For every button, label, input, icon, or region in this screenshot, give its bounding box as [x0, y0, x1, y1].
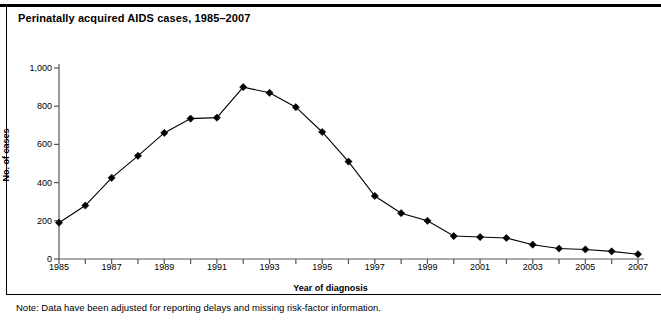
data-point-marker	[424, 217, 431, 224]
x-axis-tick-label: 2005	[575, 262, 595, 272]
y-axis-title: No. of cases	[1, 105, 11, 205]
data-point-marker	[55, 219, 62, 226]
x-axis-tick-label: 1997	[365, 262, 385, 272]
data-point-marker	[476, 233, 483, 240]
data-point-marker	[503, 234, 510, 241]
x-axis-tick-label: 1999	[417, 262, 437, 272]
x-axis-tick-label: 1985	[49, 262, 69, 272]
x-axis-tick-label: 1987	[102, 262, 122, 272]
x-axis-tick-label: 1995	[312, 262, 332, 272]
data-point-marker	[529, 241, 536, 248]
x-axis-title: Year of diagnosis	[0, 283, 661, 293]
line-chart: 02004006008001,000 198519871989199119931…	[0, 0, 661, 296]
data-point-marker	[608, 248, 615, 255]
data-point-marker	[450, 232, 457, 239]
data-point-marker	[187, 115, 194, 122]
chart-canvas	[0, 0, 661, 296]
data-point-marker	[634, 251, 641, 258]
figure-note: Note: Data have been adjusted for report…	[16, 302, 381, 313]
data-point-marker	[555, 245, 562, 252]
x-axis-tick-label: 2003	[523, 262, 543, 272]
x-axis-tick-label: 1993	[260, 262, 280, 272]
x-axis-tick-label: 2001	[470, 262, 490, 272]
data-point-marker	[266, 89, 273, 96]
data-point-marker	[398, 210, 405, 217]
data-series-line	[59, 87, 638, 254]
x-axis-tick-label: 1989	[154, 262, 174, 272]
x-axis-tick-label: 2007	[628, 262, 648, 272]
data-point-marker	[582, 246, 589, 253]
x-axis-tick-label: 1991	[207, 262, 227, 272]
figure-panel: Perinatally acquired AIDS cases, 1985–20…	[0, 0, 661, 322]
